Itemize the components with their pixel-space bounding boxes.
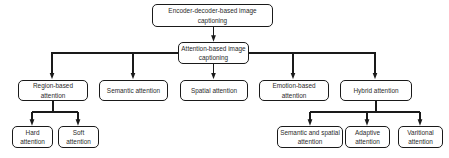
node-label: Region-based attention <box>21 81 85 100</box>
node-region-based-attention: Region-based attention <box>18 80 88 101</box>
node-varitional-attention: Varitional attention <box>398 126 443 148</box>
node-hybrid-attention: Hybrid attention <box>340 80 412 101</box>
node-encoder-decoder-based-image-captioning: Encoder-decoder-based image captioning <box>152 4 273 27</box>
node-label: Adaptive attention <box>348 128 387 147</box>
node-label: Semantic and spatial attention <box>280 128 340 147</box>
edge-bus-level2-left <box>52 53 178 76</box>
node-hard-attention: Hard attention <box>12 126 53 148</box>
node-emotion-based-attention: Emotion-based attention <box>259 80 329 101</box>
node-label: Encoder-decoder-based image captioning <box>155 6 270 25</box>
node-label: Soft attention <box>61 128 96 147</box>
node-spatial-attention: Spatial attention <box>180 80 248 101</box>
node-soft-attention: Soft attention <box>58 126 99 148</box>
edge-bus-level2-right <box>249 53 375 76</box>
node-adaptive-attention: Adaptive attention <box>345 126 390 148</box>
node-label: Semantic attention <box>102 86 165 95</box>
diagram-canvas: Encoder-decoder-based image captioning A… <box>0 0 449 158</box>
node-label: Attention-based image captioning <box>181 44 246 63</box>
node-label: Varitional attention <box>401 128 440 147</box>
node-label: Spatial attention <box>183 86 245 95</box>
node-label: Hybrid attention <box>343 86 409 95</box>
node-semantic-attention: Semantic attention <box>99 80 168 101</box>
node-label: Emotion-based attention <box>262 81 326 100</box>
node-attention-based-image-captioning: Attention-based image captioning <box>178 42 249 64</box>
node-label: Hard attention <box>15 128 50 147</box>
node-semantic-and-spatial-attention: Semantic and spatial attention <box>277 126 343 148</box>
